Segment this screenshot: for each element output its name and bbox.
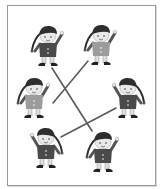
connection-line-elf-1-elf-6 [52, 68, 92, 131]
elf-4-illustration [112, 78, 145, 118]
elf-shirt [37, 145, 55, 159]
worksheet-canvas [0, 0, 161, 189]
elf-6-illustration [86, 132, 119, 172]
elf-1-illustration [31, 26, 64, 66]
elf-shirt [94, 149, 112, 163]
elf-shirt [25, 95, 43, 109]
elf-shirt [39, 43, 57, 57]
connection-line-elf-4-elf-5 [61, 108, 116, 137]
elf-3-illustration [17, 78, 50, 118]
connection-lines [52, 61, 116, 137]
elf-shirt [92, 42, 110, 56]
elf-group [17, 25, 146, 172]
elf-2-illustration [84, 25, 117, 65]
elf-5-illustration [30, 128, 63, 168]
elf-shirt [119, 95, 137, 109]
